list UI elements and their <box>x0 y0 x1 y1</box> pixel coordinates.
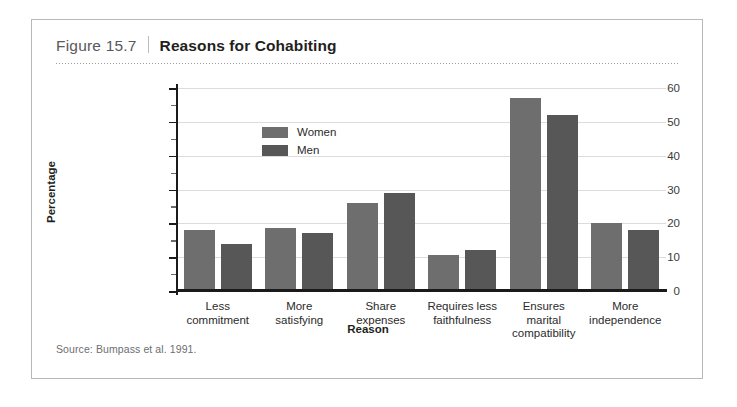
y-axis-minor-tick <box>171 240 176 241</box>
bar-women-3 <box>428 255 459 291</box>
header-dotted-rule <box>56 63 678 64</box>
x-axis-tick-label-line: expenses <box>340 314 422 328</box>
y-axis-tick-label: 50 <box>574 116 680 128</box>
x-axis-tick-label-line: independence <box>585 314 667 328</box>
y-axis-tick <box>169 257 176 259</box>
y-axis-minor-tick <box>171 105 176 106</box>
y-axis-tick-label: 0 <box>574 285 680 297</box>
bar-women-0 <box>184 230 215 291</box>
x-axis-tick-label-line: Requires less <box>422 300 504 314</box>
y-axis-minor-tick <box>171 139 176 140</box>
x-axis-tick-label: Shareexpenses <box>340 300 422 327</box>
x-axis-tick-label-line: satisfying <box>259 314 341 328</box>
chart-legend: Women Men <box>262 123 336 159</box>
x-axis-tick-label-line: marital <box>503 314 585 328</box>
bar-men-4 <box>547 115 578 291</box>
header-divider <box>148 36 149 53</box>
y-axis-tick <box>169 223 176 225</box>
bar-women-1 <box>265 228 296 291</box>
bar-men-3 <box>465 250 496 291</box>
y-axis-tick-label: 30 <box>574 184 680 196</box>
bar-women-2 <box>347 203 378 291</box>
bar-men-0 <box>221 244 252 291</box>
y-axis-tick <box>169 190 176 192</box>
y-axis-minor-tick <box>171 173 176 174</box>
bar-women-4 <box>510 98 541 291</box>
y-axis-minor-tick <box>171 206 176 207</box>
figure-title: Reasons for Cohabiting <box>160 37 337 55</box>
x-axis-tick-label: Moreindependence <box>585 300 667 327</box>
x-axis-tick-label: Moresatisfying <box>259 300 341 327</box>
y-axis-tick <box>169 156 176 158</box>
legend-label-men: Men <box>297 144 319 156</box>
x-axis-tick-label: Requires lessfaithfulness <box>422 300 504 327</box>
legend-label-women: Women <box>297 126 336 138</box>
legend-item-men: Men <box>262 141 336 159</box>
y-axis-tick-label: 10 <box>574 251 680 263</box>
x-axis-tick-label-line: More <box>585 300 667 314</box>
x-axis-tick-label-line: Ensures <box>503 300 585 314</box>
source-note: Source: Bumpass et al. 1991. <box>56 343 197 355</box>
x-axis-tick-label-line: commitment <box>177 314 259 328</box>
x-axis-tick-label: Lesscommitment <box>177 300 259 327</box>
bar-men-2 <box>384 193 415 291</box>
x-axis-tick-label-line: compatibility <box>503 327 585 341</box>
figure-box: Figure 15.7 Reasons for Cohabiting Perce… <box>31 19 703 379</box>
y-axis-minor-tick <box>171 274 176 275</box>
y-axis-tick <box>169 122 176 124</box>
y-axis-tick-label: 20 <box>574 217 680 229</box>
legend-swatch-women <box>262 127 288 138</box>
bar-men-1 <box>302 233 333 291</box>
y-axis-tick <box>169 88 176 90</box>
bar-chart: Percentage Women Men Reason 010203040506… <box>56 78 680 336</box>
y-axis-tick <box>169 291 176 293</box>
y-axis-spine <box>176 84 178 295</box>
x-axis-tick-label-line: faithfulness <box>422 314 504 328</box>
legend-item-women: Women <box>262 123 336 141</box>
x-axis-tick-label-line: Share <box>340 300 422 314</box>
figure-header: Figure 15.7 Reasons for Cohabiting <box>56 34 337 55</box>
x-axis-tick-label-line: More <box>259 300 341 314</box>
x-axis-tick-label: Ensuresmaritalcompatibility <box>503 300 585 341</box>
y-axis-tick-label: 40 <box>574 150 680 162</box>
x-axis-tick-label-line: Less <box>177 300 259 314</box>
y-axis-tick-label: 60 <box>574 82 680 94</box>
figure-number: Figure 15.7 <box>56 37 137 55</box>
legend-swatch-men <box>262 145 288 156</box>
y-axis-title: Percentage <box>45 161 57 223</box>
